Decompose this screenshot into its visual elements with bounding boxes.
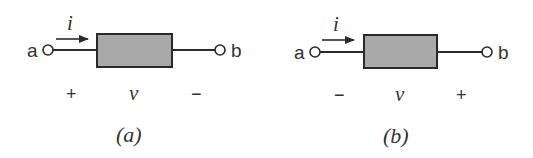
voltage-sign-right: − [191,84,202,104]
circuit-element-box [97,34,172,67]
voltage-sign-left: − [334,85,345,105]
circuit-element-figure: a b i + v − (a) a b i − v + (b) [0,0,533,158]
current-label: i [67,11,73,35]
current-label: i [333,12,339,36]
voltage-label: v [395,82,405,106]
diagram-a: a b i + v − (a) [27,11,242,147]
terminal-b-node [215,45,225,55]
caption-a: (a) [116,122,142,147]
terminal-a-node [43,45,53,55]
terminal-a-node [310,47,320,57]
circuit-element-box [364,35,437,68]
terminal-b-label: b [498,42,509,63]
terminal-b-label: b [231,40,242,61]
terminal-a-label: a [27,40,38,61]
terminal-a-label: a [294,42,305,63]
caption-b: (b) [383,123,409,148]
voltage-label: v [129,81,139,105]
voltage-sign-right: + [456,85,467,105]
diagram-b: a b i − v + (b) [294,12,509,148]
voltage-sign-left: + [66,84,77,104]
terminal-b-node [482,47,492,57]
